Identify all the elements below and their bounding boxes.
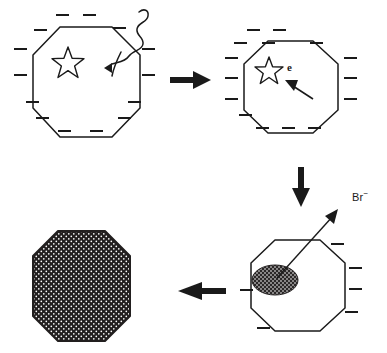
panel-2-star-icon — [255, 57, 283, 84]
panel-1-octagon — [33, 27, 140, 137]
bromide-label-text: Br — [352, 191, 363, 203]
panel-2-electron-arrowhead-icon — [285, 80, 298, 91]
panel-2-charges — [225, 30, 357, 128]
bromide-charge-superscript: − — [363, 189, 368, 198]
electron-label: e — [287, 62, 292, 73]
arrow-step-1-to-2 — [170, 71, 211, 89]
bromide-label: Br− — [352, 190, 368, 203]
panel-1-star-icon — [52, 47, 84, 78]
panel-1-excitation-squiggle-icon — [112, 10, 148, 64]
panel-3-hatched-ellipse — [252, 265, 298, 295]
arrow-step-2-to-3 — [292, 167, 310, 207]
panel-4-octagon-filled — [33, 231, 130, 341]
arrow-step-3-to-4 — [178, 282, 226, 300]
reaction-scheme-figure: e Br− — [0, 0, 387, 353]
panel-2-electron-arrow-shaft — [293, 86, 313, 99]
panel-3-group — [240, 209, 362, 331]
diagram-canvas — [0, 0, 387, 353]
panel-4-group — [33, 231, 130, 341]
panel-2-group — [225, 30, 357, 133]
panel-1-group — [14, 10, 155, 137]
panel-3-bromide-arrow-shaft — [277, 216, 333, 278]
panel-1-squiggle-arrowhead-icon — [104, 63, 112, 73]
